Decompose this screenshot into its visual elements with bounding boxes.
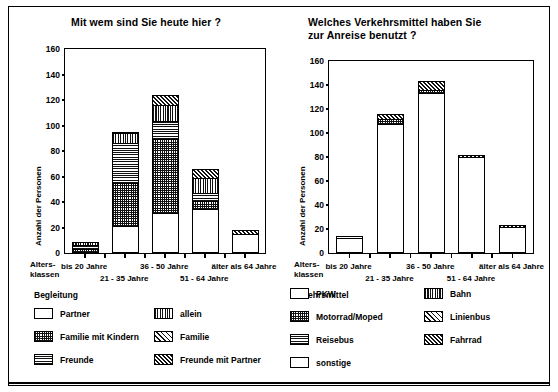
x-tick-mark-minor	[104, 253, 106, 258]
alters-label-line2: klassen	[30, 270, 59, 280]
bar-right-3	[458, 155, 485, 253]
bar-segment	[113, 144, 138, 184]
legend-label: Fahrrad	[450, 335, 482, 345]
legend-label: allein	[180, 309, 202, 319]
legend-swatch	[290, 288, 309, 299]
legend-swatch	[154, 308, 173, 319]
legend-item[interactable]: sonstige	[290, 357, 351, 368]
legend-swatch	[34, 331, 53, 342]
alters-label-line1: Alters-	[294, 260, 323, 270]
bar-segment	[73, 250, 98, 252]
legend-label: Linienbus	[450, 312, 490, 322]
x-axis-category-label: 21 - 35 Jahre	[100, 274, 148, 283]
bar-segment	[193, 194, 218, 203]
legend-item[interactable]: Fahrrad	[424, 334, 482, 345]
legend-swatch	[154, 354, 173, 365]
bar-segment	[153, 214, 178, 252]
y-tick-mark	[326, 108, 329, 110]
legend-item[interactable]: Familie mit Kindern	[34, 331, 139, 342]
bar-segment	[419, 94, 444, 252]
y-tick-label: 160	[310, 56, 329, 66]
x-axis-category-label: 51 - 64 Jahre	[447, 274, 495, 283]
x-tick-mark	[164, 253, 166, 258]
legend-label: Reisebus	[316, 335, 354, 345]
y-tick-mark	[326, 84, 329, 86]
y-tick-mark	[326, 156, 329, 158]
plot-area-left: 020406080100120140160	[64, 48, 266, 254]
legend-item[interactable]: Freunde mit Partner	[154, 354, 261, 365]
legend-swatch	[154, 331, 173, 342]
legend-label: Motorrad/Moped	[316, 312, 383, 322]
legend-item[interactable]: Motorrad/Moped	[290, 311, 383, 322]
bar-segment	[153, 96, 178, 106]
x-tick-mark	[124, 253, 126, 258]
figure-root: Mit wem sind Sie heute hier ? Anzahl der…	[0, 0, 558, 392]
chart-title-left: Mit wem sind Sie heute hier ?	[14, 16, 278, 29]
x-tick-mark-minor	[369, 253, 371, 258]
bottom-divider	[8, 382, 550, 384]
bar-left-3	[192, 169, 219, 253]
y-tick-label: 0	[319, 248, 329, 258]
legend-swatch	[424, 311, 443, 322]
y-tick-mark	[62, 176, 65, 178]
bar-left-1	[112, 132, 139, 253]
legend-item[interactable]: Linienbus	[424, 311, 490, 322]
y-tick-mark	[62, 99, 65, 101]
bar-segment	[193, 170, 218, 179]
legend-item[interactable]: PKW	[290, 288, 336, 299]
bar-segment	[337, 239, 362, 252]
x-axis-category-label: 51 - 64 Jahre	[180, 274, 228, 283]
bar-segment	[193, 179, 218, 194]
alters-label-line1: Alters-	[30, 260, 59, 270]
x-tick-mark-minor	[451, 253, 453, 258]
x-tick-mark-minor	[184, 253, 186, 258]
legend-swatch	[290, 334, 309, 345]
bar-right-0	[336, 236, 363, 253]
alters-label-line2: klassen	[294, 270, 323, 280]
chart-panel-left: Mit wem sind Sie heute hier ? Anzahl der…	[14, 12, 278, 280]
legend-item[interactable]: Freunde	[34, 354, 94, 365]
x-axis-category-label: bis 20 Jahre	[325, 262, 371, 271]
legend-item[interactable]: Familie	[154, 331, 209, 342]
bar-segment	[153, 106, 178, 122]
bar-segment	[113, 227, 138, 252]
x-tick-mark-minor	[491, 253, 493, 258]
legend-label: Familie mit Kindern	[60, 332, 139, 342]
bar-segment	[193, 210, 218, 252]
chart-panel-right: Welches Verkehrsmittel haben Sie zur Anr…	[278, 12, 546, 280]
legend-item[interactable]: Partner	[34, 308, 90, 319]
legend-item[interactable]: allein	[154, 308, 202, 319]
y-tick-mark	[326, 132, 329, 134]
y-tick-label: 160	[46, 44, 65, 54]
bar-right-1	[377, 114, 404, 253]
chart-title-right-line1: Welches Verkehrsmittel haben Sie	[308, 16, 558, 29]
x-tick-mark	[84, 253, 86, 258]
legend-label: PKW	[316, 289, 336, 299]
bar-left-0	[72, 242, 99, 253]
legend-item[interactable]: Reisebus	[290, 334, 354, 345]
bar-segment	[153, 140, 178, 214]
y-tick-label: 0	[55, 248, 65, 258]
y-tick-mark	[62, 201, 65, 203]
x-tick-mark	[204, 253, 206, 258]
chart-title-right: Welches Verkehrsmittel haben Sie zur Anr…	[278, 16, 558, 42]
legend-title-left: Begleitung	[34, 290, 78, 300]
x-tick-mark	[349, 253, 351, 258]
x-tick-mark	[389, 253, 391, 258]
x-axis-category-label: bis 20 Jahre	[61, 262, 107, 271]
bar-left-2	[152, 95, 179, 253]
x-tick-mark-minor	[144, 253, 146, 258]
legend-item[interactable]: Bahn	[424, 288, 471, 299]
x-axis-category-label: 21 - 35 Jahre	[365, 274, 413, 283]
bar-segment	[459, 158, 484, 252]
legend-label: Familie	[180, 332, 209, 342]
y-tick-mark	[326, 204, 329, 206]
legend-label: Partner	[60, 309, 90, 319]
y-tick-mark	[62, 227, 65, 229]
legend-swatch	[424, 288, 443, 299]
x-tick-mark-minor	[224, 253, 226, 258]
y-tick-mark	[326, 180, 329, 182]
legend-label: sonstige	[316, 358, 351, 368]
x-axis-group-label-left: Alters-klassen	[30, 260, 59, 280]
legend-label: Freunde	[60, 355, 94, 365]
